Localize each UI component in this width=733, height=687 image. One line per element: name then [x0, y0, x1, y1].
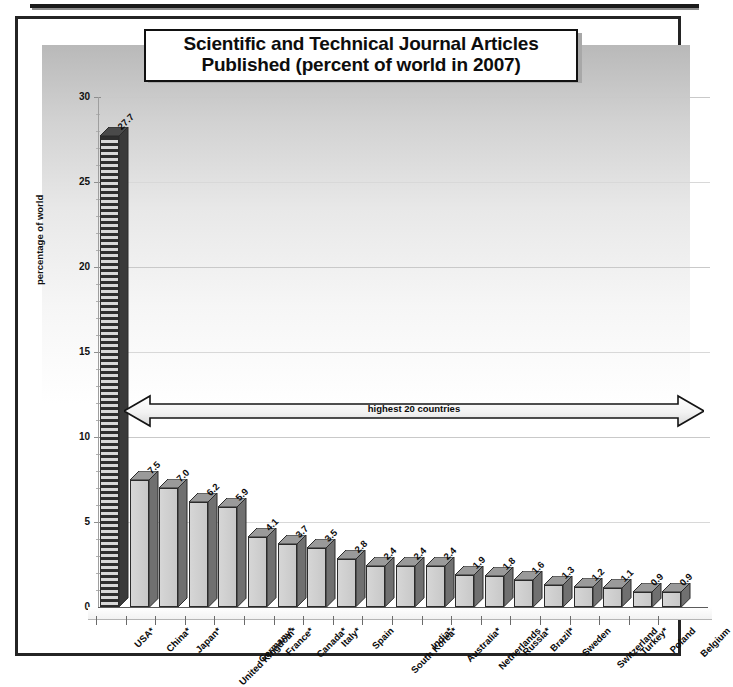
bar-side-face [445, 557, 455, 607]
x-category-label-19: Belgium [698, 625, 732, 659]
bar-side-face [563, 576, 573, 607]
y-tick-label-10: 10 [60, 431, 90, 442]
y-axis-title: percentage of world [34, 195, 45, 285]
bar-front-face [485, 576, 504, 607]
bar-1 [130, 471, 158, 608]
bar-13 [485, 567, 513, 607]
bar-front-face [366, 566, 385, 607]
bar-12 [455, 566, 483, 607]
x-tick-8 [333, 616, 334, 625]
bar-8 [337, 550, 365, 607]
bar-front-face [278, 544, 297, 607]
bar-front-face [218, 507, 237, 607]
bar-side-face [533, 571, 543, 607]
x-tick-3 [185, 616, 186, 625]
bar-9 [366, 557, 394, 607]
y-axis-line [98, 97, 99, 607]
bar-side-face [356, 550, 366, 607]
y-tick-label-20: 20 [60, 261, 90, 272]
y-tick-label-15: 15 [60, 346, 90, 357]
bar-front-face [455, 575, 474, 607]
bar-side-face [237, 498, 247, 607]
page-top-rule-shadow [32, 8, 699, 10]
x-tick-5 [244, 616, 245, 625]
bar-front-face [248, 537, 267, 607]
bar-side-face [149, 471, 159, 608]
bar-14 [514, 571, 542, 607]
plot-area: 051015202530 27.77.57.06.25.94.13.73.52.… [42, 45, 690, 590]
bar-4 [218, 498, 246, 607]
bar-front-face [603, 588, 622, 607]
bar-front-face [633, 592, 652, 607]
bar-front-face [662, 592, 681, 607]
bar-side-face [415, 557, 425, 607]
bar-front-face [337, 559, 356, 607]
bar-15 [544, 576, 572, 607]
bar-front-face [574, 587, 593, 607]
bar-side-face [119, 127, 129, 607]
x-tick-1 [126, 616, 127, 625]
bar-17 [603, 579, 631, 607]
x-category-label-15: Sweden [580, 625, 613, 658]
bar-front-face [396, 566, 415, 607]
bar-front-face [426, 566, 445, 607]
x-tick-16 [570, 616, 571, 625]
x-tick-2 [155, 616, 156, 625]
chart-title-line-2: Published (percent of world in 2007) [154, 55, 568, 76]
bar-10 [396, 557, 424, 607]
y-tick-label-5: 5 [60, 516, 90, 527]
bar-3 [189, 493, 217, 607]
bar-6 [278, 535, 306, 607]
chart-title: Scientific and Technical Journal Article… [144, 29, 578, 82]
bar-front-face [189, 502, 208, 607]
gridline-10 [98, 437, 710, 438]
y-tick-label-0: 0 [60, 601, 90, 612]
x-tick-7 [303, 616, 304, 625]
x-category-label-18: Poland [667, 625, 697, 655]
bar-side-face [504, 567, 514, 607]
gridline-15 [98, 352, 710, 353]
bar-side-face [326, 539, 336, 608]
bar-0 [100, 127, 128, 607]
x-tick-14 [510, 616, 511, 625]
x-category-label-1: China* [163, 625, 192, 654]
bar-2 [159, 479, 187, 607]
x-tick-12 [451, 616, 452, 625]
y-tick-label-30: 30 [60, 91, 90, 102]
x-tick-19 [658, 616, 659, 625]
bar-front-face [514, 580, 533, 607]
chart-title-line-1: Scientific and Technical Journal Article… [154, 34, 568, 55]
x-category-label-8: Spain [369, 625, 395, 651]
x-category-label-14: Brazil* [548, 625, 577, 654]
x-tick-18 [629, 616, 630, 625]
x-tick-15 [540, 616, 541, 625]
bar-side-face [208, 493, 218, 607]
plot-floor [88, 607, 712, 620]
x-tick-9 [362, 616, 363, 625]
x-category-label-2: Japan* [193, 625, 223, 655]
x-tick-11 [422, 616, 423, 625]
bar-side-face [267, 528, 277, 607]
y-tick-label-25: 25 [60, 176, 90, 187]
x-tick-13 [481, 616, 482, 625]
bar-7 [307, 539, 335, 608]
x-category-label-0: USA* [132, 625, 157, 650]
bar-front-face [307, 548, 326, 608]
bar-side-face [474, 566, 484, 607]
x-tick-17 [599, 616, 600, 625]
x-tick-10 [392, 616, 393, 625]
gridline-20 [98, 267, 710, 268]
bar-front-face [159, 488, 178, 607]
bar-front-face [544, 585, 563, 607]
figure-frame: 051015202530 27.77.57.06.25.94.13.73.52.… [15, 16, 681, 656]
x-axis-line [98, 607, 708, 608]
bar-side-face [178, 479, 188, 607]
gridline-30 [98, 97, 710, 98]
gridline-25 [98, 182, 710, 183]
bar-front-face [100, 136, 119, 607]
bar-5 [248, 528, 276, 607]
x-category-label-11: Australia* [464, 625, 503, 664]
x-tick-0 [96, 616, 97, 625]
bar-side-face [297, 535, 307, 607]
x-tick-6 [274, 616, 275, 625]
